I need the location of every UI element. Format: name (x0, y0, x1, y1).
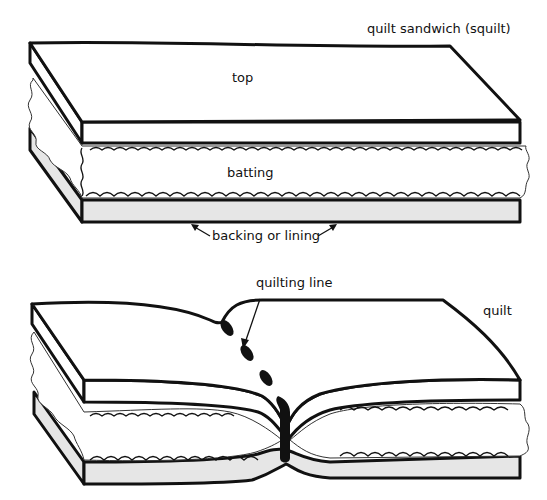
label-backing: backing or lining (212, 228, 320, 243)
quilt-sandwich-figure: quilt sandwich (squilt) top batting back… (28, 21, 529, 243)
quilt-figure: quilting line quilt (30, 275, 529, 484)
label-batting: batting (227, 165, 274, 180)
label-quilting-line: quilting line (256, 275, 333, 290)
top-layer (30, 42, 520, 143)
title-quilt: quilt (483, 303, 512, 318)
label-top: top (232, 70, 253, 85)
title-quilt-sandwich: quilt sandwich (squilt) (367, 21, 511, 36)
quilt-diagram: quilt sandwich (squilt) top batting back… (0, 0, 547, 500)
